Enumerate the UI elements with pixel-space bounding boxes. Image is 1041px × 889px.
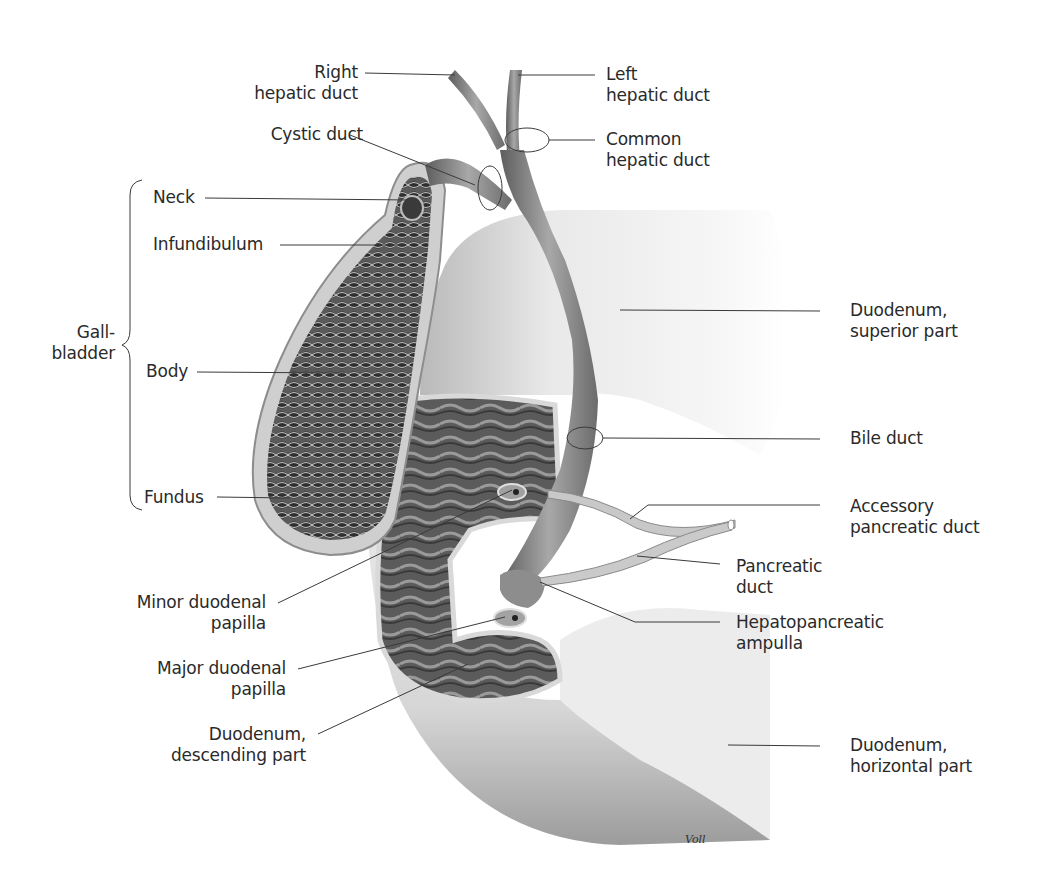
label-neck: Neck: [153, 187, 195, 208]
label-major-duodenal-papilla: Major duodenal papilla: [157, 658, 286, 700]
label-left-hepatic-duct: Left hepatic duct: [606, 64, 710, 106]
label-right-hepatic-duct: Right hepatic duct: [254, 62, 358, 104]
label-accessory-pancreatic-duct: Accessory pancreatic duct: [850, 496, 980, 538]
label-duodenum-superior-part: Duodenum, superior part: [850, 300, 958, 342]
label-body: Body: [146, 361, 188, 382]
label-infundibulum: Infundibulum: [153, 234, 263, 255]
label-gallbladder: Gall- bladder: [51, 322, 115, 364]
anatomy-diagram: Right hepatic duct Left hepatic duct Cys…: [0, 0, 1041, 889]
label-duodenum-horizontal-part: Duodenum, horizontal part: [850, 735, 972, 777]
label-hepatopancreatic-ampulla: Hepatopancreatic ampulla: [736, 612, 884, 654]
label-bile-duct: Bile duct: [850, 428, 923, 449]
label-duodenum-descending-part: Duodenum, descending part: [171, 724, 306, 766]
artist-signature: Voll: [685, 833, 706, 846]
label-fundus: Fundus: [144, 487, 204, 508]
label-common-hepatic-duct: Common hepatic duct: [606, 129, 710, 171]
label-minor-duodenal-papilla: Minor duodenal papilla: [137, 592, 266, 634]
label-pancreatic-duct: Pancreatic duct: [736, 556, 822, 598]
label-cystic-duct: Cystic duct: [271, 124, 363, 145]
